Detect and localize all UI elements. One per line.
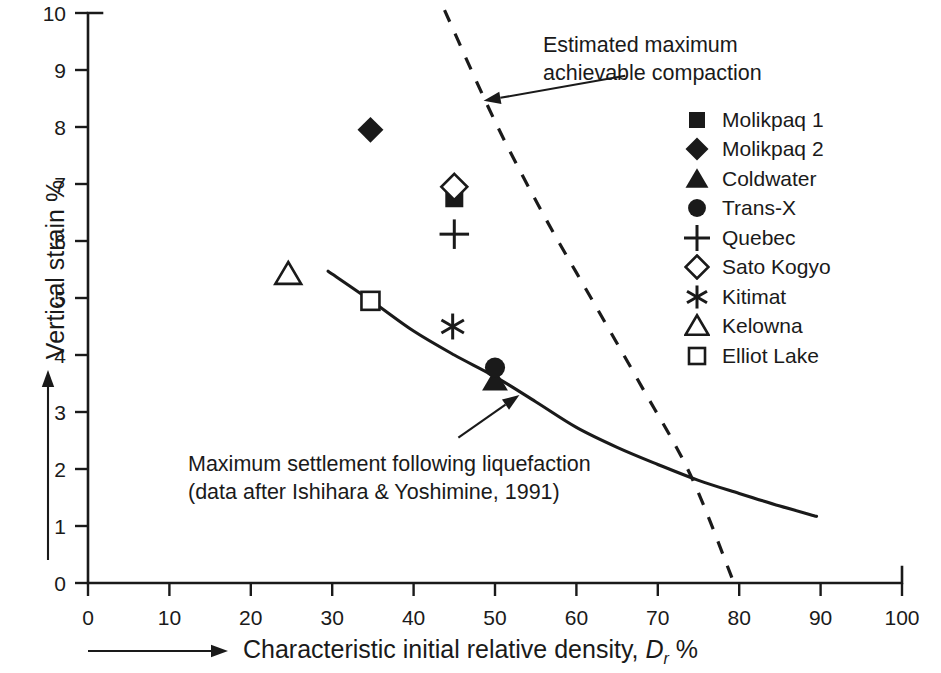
data-marker-elliot-lake <box>361 292 379 310</box>
legend-item-label: Molikpaq 2 <box>714 137 824 161</box>
legend-item-quebec[interactable]: Quebec <box>680 223 930 253</box>
data-marker-molikpaq-2 <box>357 117 383 143</box>
legend-marker-plus-icon <box>680 225 714 251</box>
legend-item-kitimat[interactable]: Kitimat <box>680 282 930 312</box>
legend: Molikpaq 1Molikpaq 2ColdwaterTrans-XQueb… <box>680 105 930 371</box>
data-marker-quebec <box>440 219 470 249</box>
legend-item-label: Coldwater <box>714 167 817 191</box>
annotation-arrow-maximum-settlement-following-liquefaction <box>458 395 519 438</box>
legend-item-label: Kitimat <box>714 285 786 309</box>
legend-marker-open-square-icon <box>680 343 714 369</box>
x-tick-label: 70 <box>646 606 669 629</box>
y-tick-label: 3 <box>54 401 66 424</box>
legend-item-coldwater[interactable]: Coldwater <box>680 164 930 194</box>
y-tick-label: 9 <box>54 59 66 82</box>
y-tick-label: 0 <box>54 572 66 595</box>
x-axis-title: Characteristic initial relative density,… <box>243 635 698 668</box>
legend-item-label: Sato Kogyo <box>714 255 831 279</box>
legend-marker-open-triangle-icon <box>680 313 714 339</box>
legend-item-label: Molikpaq 1 <box>714 108 824 132</box>
legend-item-sato-kogyo[interactable]: Sato Kogyo <box>680 253 930 283</box>
legend-item-kelowna[interactable]: Kelowna <box>680 312 930 342</box>
data-marker-kelowna <box>275 262 301 284</box>
legend-item-elliot-lake[interactable]: Elliot Lake <box>680 341 930 371</box>
legend-marker-filled-square-icon <box>680 107 714 133</box>
x-axis-title-suffix: % <box>669 635 698 663</box>
x-tick-label: 90 <box>809 606 832 629</box>
legend-item-label: Kelowna <box>714 314 803 338</box>
legend-marker-filled-triangle-icon <box>680 166 714 192</box>
y-tick-label: 8 <box>54 116 66 139</box>
legend-item-molikpaq-1[interactable]: Molikpaq 1 <box>680 105 930 135</box>
y-tick-label: 2 <box>54 458 66 481</box>
annotation-compaction-line1: Estimated maximum <box>543 33 738 57</box>
legend-item-trans-x[interactable]: Trans-X <box>680 194 930 224</box>
annotation-settlement-line2: (data after Ishihara & Yoshimine, 1991) <box>188 480 560 504</box>
y-axis-title: Vertical strain % <box>41 155 70 385</box>
legend-marker-filled-circle-icon <box>680 195 714 221</box>
x-axis-title-arrow <box>88 645 228 657</box>
y-tick-label: 10 <box>43 2 66 25</box>
x-tick-label: 10 <box>158 606 181 629</box>
data-marker-sato-kogyo <box>441 174 467 200</box>
legend-marker-open-diamond-icon <box>680 254 714 280</box>
data-marker-trans-x <box>485 357 505 377</box>
legend-item-molikpaq-2[interactable]: Molikpaq 2 <box>680 135 930 165</box>
figure-root: 0102030405060708090100012345678910 Verti… <box>0 0 941 673</box>
axis-title-arrows <box>42 370 228 657</box>
data-markers <box>275 117 508 391</box>
legend-marker-filled-diamond-icon <box>680 136 714 162</box>
x-tick-label: 60 <box>565 606 588 629</box>
x-tick-label: 30 <box>321 606 344 629</box>
legend-marker-asterisk-icon <box>680 284 714 310</box>
data-marker-kitimat <box>441 314 463 340</box>
x-tick-label: 100 <box>884 606 919 629</box>
x-tick-label: 80 <box>728 606 751 629</box>
x-tick-label: 40 <box>402 606 425 629</box>
y-tick-label: 1 <box>54 515 66 538</box>
annotation-compaction-line2: achievable compaction <box>543 61 762 85</box>
x-axis-title-prefix: Characteristic initial relative density, <box>243 635 645 663</box>
annotation-settlement-line1: Maximum settlement following liquefactio… <box>188 452 591 476</box>
annotation-arrows <box>458 76 625 438</box>
y-axis-title-arrow <box>42 370 54 560</box>
legend-item-label: Quebec <box>714 226 796 250</box>
legend-item-label: Trans-X <box>714 196 796 220</box>
x-tick-label: 0 <box>82 606 94 629</box>
x-axis-title-symbol: D <box>645 635 663 663</box>
x-tick-label: 20 <box>239 606 262 629</box>
legend-item-label: Elliot Lake <box>714 344 819 368</box>
annotation-compaction: Estimated maximum achievable compaction <box>543 31 762 88</box>
x-tick-label: 50 <box>483 606 506 629</box>
annotation-settlement: Maximum settlement following liquefactio… <box>188 450 591 507</box>
